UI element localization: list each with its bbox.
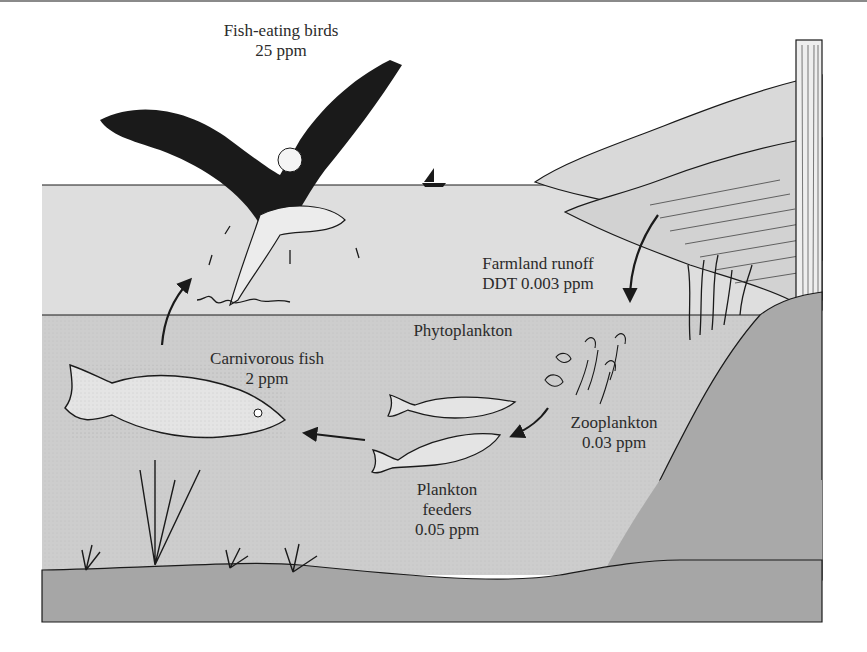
plankton-feeders-line2: feeders (397, 500, 497, 520)
zooplankton-name: Zooplankton (554, 413, 674, 433)
label-plankton-feeders: Plankton feeders 0.05 ppm (397, 480, 497, 540)
plankton-feeders-ppm: 0.05 ppm (397, 520, 497, 540)
birds-name: Fish-eating birds (206, 21, 356, 41)
runoff-ppm: DDT 0.003 ppm (458, 274, 618, 294)
plankton-feeders-line1: Plankton (397, 480, 497, 500)
label-phytoplankton: Phytoplankton (398, 321, 528, 341)
label-carnivorous-fish: Carnivorous fish 2 ppm (192, 349, 342, 389)
label-farmland-runoff: Farmland runoff DDT 0.003 ppm (458, 254, 618, 294)
phytoplankton-name: Phytoplankton (398, 321, 528, 341)
runoff-name: Farmland runoff (458, 254, 618, 274)
label-fish-eating-birds: Fish-eating birds 25 ppm (206, 21, 356, 61)
zooplankton-ppm: 0.03 ppm (554, 433, 674, 453)
birds-ppm: 25 ppm (206, 41, 356, 61)
sailboat (422, 168, 446, 187)
carnivorous-fish-name: Carnivorous fish (192, 349, 342, 369)
carnivorous-fish-ppm: 2 ppm (192, 369, 342, 389)
label-zooplankton: Zooplankton 0.03 ppm (554, 413, 674, 453)
